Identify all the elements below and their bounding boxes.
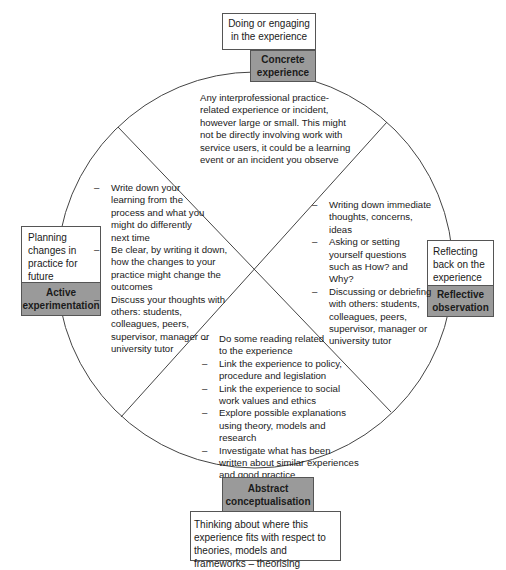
reflective-observation-bullet: Writing down immediate thoughts, concern… xyxy=(310,199,435,236)
abstract-conceptualisation-description: Thinking about where this experience fit… xyxy=(190,511,341,561)
active-experimentation-bullets: Write down your learning from the proces… xyxy=(92,182,242,356)
active-experimentation-label: Active experimentation xyxy=(21,282,101,316)
abstract-conceptualisation-bullet: Explore possible explanations using theo… xyxy=(200,407,364,444)
reflective-observation-bullet: Asking or setting yourself questions suc… xyxy=(310,236,429,286)
abstract-conceptualisation-bullets: Do some reading related to the experienc… xyxy=(200,333,360,482)
concrete-experience-description: Doing or engaging in the experience xyxy=(222,13,316,50)
reflective-observation-description: Reflecting back on the experience xyxy=(427,240,494,286)
abstract-conceptualisation-bullet: Link the experience to social work value… xyxy=(200,383,357,408)
reflective-observation-bullets: Writing down immediate thoughts, concern… xyxy=(310,199,435,348)
concrete-experience-label: Concrete experience xyxy=(250,50,316,82)
active-experimentation-description: Planning changes in practice for future … xyxy=(21,226,101,283)
reflective-observation-label: Reflective observation xyxy=(427,285,494,317)
concrete-experience-detail: Any interprofessional practice-related e… xyxy=(200,92,356,166)
active-experimentation-bullet: Write down your learning from the proces… xyxy=(92,182,206,244)
abstract-conceptualisation-bullet: Do some reading related to the experienc… xyxy=(200,333,329,358)
abstract-conceptualisation-label: Abstract conceptualisation xyxy=(222,477,314,512)
active-experimentation-bullet: Be clear, by writing it down, how the ch… xyxy=(92,244,229,294)
abstract-conceptualisation-bullet: Link the experience to policy, procedure… xyxy=(200,358,347,383)
